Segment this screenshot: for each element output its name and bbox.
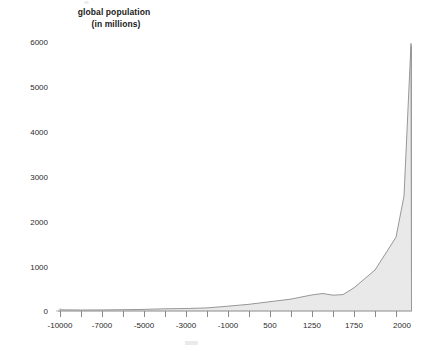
x-tick-label: 1750 bbox=[345, 322, 363, 330]
y-tick-label: 0 bbox=[8, 308, 48, 316]
population-area-outline bbox=[60, 44, 411, 311]
x-tick-label: -7000 bbox=[92, 322, 112, 330]
y-tick-label: 2000 bbox=[8, 219, 48, 227]
x-axis-ticks bbox=[61, 311, 397, 317]
x-tick-label: -5000 bbox=[134, 322, 154, 330]
y-tick-label: 6000 bbox=[8, 39, 48, 47]
x-tick-label: 2000 bbox=[393, 322, 411, 330]
chart-plot-area bbox=[0, 0, 426, 351]
x-tick-label: 1250 bbox=[303, 322, 321, 330]
scan-artifact-bottom bbox=[185, 341, 198, 345]
y-tick-label: 4000 bbox=[8, 129, 48, 137]
x-tick-label: 500 bbox=[263, 322, 276, 330]
population-area-fill bbox=[60, 44, 411, 312]
population-area-chart-figure: global population (in millions) bbox=[0, 0, 426, 351]
x-tick-label: -1000 bbox=[218, 322, 238, 330]
y-tick-label: 3000 bbox=[8, 174, 48, 182]
population-area-series bbox=[60, 44, 412, 312]
x-tick-label: -3000 bbox=[176, 322, 196, 330]
x-tick-label: -10000 bbox=[48, 322, 73, 330]
y-tick-label: 5000 bbox=[8, 84, 48, 92]
y-tick-label: 1000 bbox=[8, 264, 48, 272]
